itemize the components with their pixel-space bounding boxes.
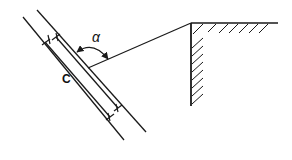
connection-ticks xyxy=(42,33,122,121)
angle-arc xyxy=(77,47,108,59)
angle-label: α xyxy=(92,29,101,45)
member-inner-left-line xyxy=(45,42,110,117)
member-label: C xyxy=(62,72,71,86)
wall-hatching xyxy=(192,24,268,104)
tie-rod xyxy=(88,23,191,68)
beam-outer-left-line xyxy=(23,17,124,140)
beam xyxy=(23,10,146,140)
tie-beam-diagram: α C xyxy=(0,0,292,160)
wall-support xyxy=(191,23,278,106)
